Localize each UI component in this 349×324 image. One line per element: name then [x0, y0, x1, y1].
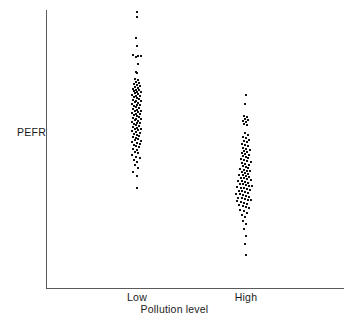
- data-point-low: [134, 128, 136, 130]
- data-point-low: [139, 143, 141, 145]
- data-point-low: [137, 55, 139, 57]
- data-point-low: [134, 101, 136, 103]
- data-point-high: [242, 205, 244, 207]
- y-axis-label: PEFR: [17, 126, 46, 138]
- data-point-low: [137, 79, 139, 81]
- data-point-high: [241, 171, 243, 173]
- data-point-low: [135, 156, 137, 158]
- data-point-high: [242, 174, 244, 176]
- data-point-high: [249, 149, 251, 151]
- data-point-low: [133, 96, 135, 98]
- data-point-low: [139, 113, 141, 115]
- x-tick-label-high: High: [216, 291, 276, 303]
- data-point-high: [247, 167, 249, 169]
- data-point-high: [240, 187, 242, 189]
- data-point-high: [243, 150, 245, 152]
- data-point-high: [240, 158, 242, 160]
- data-point-high: [238, 190, 240, 192]
- data-point-low: [139, 157, 141, 159]
- data-point-low: [135, 37, 137, 39]
- data-point-high: [239, 209, 241, 211]
- data-point-low: [135, 145, 137, 147]
- data-point-high: [241, 152, 243, 154]
- data-point-high: [237, 197, 239, 199]
- data-point-high: [244, 144, 246, 146]
- data-point-low: [138, 107, 140, 109]
- data-point-high: [245, 175, 247, 177]
- data-point-low: [140, 128, 142, 130]
- data-point-high: [242, 155, 244, 157]
- data-point-low: [140, 118, 142, 120]
- data-point-high: [236, 186, 238, 188]
- data-point-high: [251, 185, 253, 187]
- data-point-high: [241, 162, 243, 164]
- data-point-high: [248, 207, 250, 209]
- data-point-high: [240, 177, 242, 179]
- data-point-high: [237, 180, 239, 182]
- data-point-low: [138, 82, 140, 84]
- x-tick-label-low: Low: [107, 291, 167, 303]
- data-point-low: [134, 139, 136, 141]
- data-point-low: [140, 55, 142, 57]
- data-point-high: [240, 201, 242, 203]
- data-point-high: [247, 119, 249, 121]
- data-point-high: [244, 191, 246, 193]
- data-point-high: [242, 220, 244, 222]
- data-point-low: [136, 149, 138, 151]
- data-point-high: [247, 182, 249, 184]
- data-point-high: [243, 123, 245, 125]
- data-point-low: [139, 95, 141, 97]
- data-point-high: [245, 195, 247, 197]
- data-point-high: [249, 189, 251, 191]
- data-point-high: [239, 168, 241, 170]
- data-point-high: [243, 177, 245, 179]
- data-point-high: [245, 121, 247, 123]
- data-point-low: [132, 136, 134, 138]
- data-point-high: [241, 180, 243, 182]
- data-point-high: [244, 172, 246, 174]
- data-point-low: [131, 154, 133, 156]
- data-point-low: [135, 106, 137, 108]
- data-point-low: [138, 125, 140, 127]
- pefr-pollution-strip-plot: PEFR Low High Pollution level: [0, 0, 349, 324]
- x-axis-label: Pollution level: [0, 303, 349, 315]
- data-point-high: [246, 188, 248, 190]
- data-point-low: [134, 164, 136, 166]
- data-point-high: [245, 254, 247, 256]
- data-point-high: [245, 223, 247, 225]
- data-point-low: [140, 110, 142, 112]
- data-point-low: [136, 187, 138, 189]
- data-point-high: [242, 183, 244, 185]
- data-point-low: [134, 151, 136, 153]
- data-point-high: [248, 185, 250, 187]
- data-point-high: [241, 143, 243, 145]
- data-point-high: [247, 192, 249, 194]
- data-point-high: [250, 199, 252, 201]
- data-point-low: [137, 129, 139, 131]
- data-point-high: [239, 193, 241, 195]
- data-point-high: [250, 161, 252, 163]
- data-point-high: [242, 194, 244, 196]
- data-point-low: [132, 171, 134, 173]
- data-point-high: [244, 103, 246, 105]
- data-point-high: [244, 163, 246, 165]
- data-point-low: [134, 110, 136, 112]
- data-point-low: [139, 85, 141, 87]
- data-point-high: [243, 202, 245, 204]
- data-point-low: [136, 84, 138, 86]
- data-point-high: [246, 178, 248, 180]
- data-point-low: [134, 78, 136, 80]
- data-point-low: [137, 138, 139, 140]
- data-point-low: [138, 135, 140, 137]
- data-point-low: [137, 63, 139, 65]
- data-point-high: [244, 153, 246, 155]
- data-point-high: [248, 164, 250, 166]
- data-point-high: [238, 174, 240, 176]
- data-point-low: [136, 175, 138, 177]
- data-point-high: [247, 134, 249, 136]
- data-point-high: [246, 124, 248, 126]
- data-point-low: [135, 124, 137, 126]
- data-point-low: [139, 132, 141, 134]
- data-point-low: [138, 146, 140, 148]
- data-point-low: [131, 130, 133, 132]
